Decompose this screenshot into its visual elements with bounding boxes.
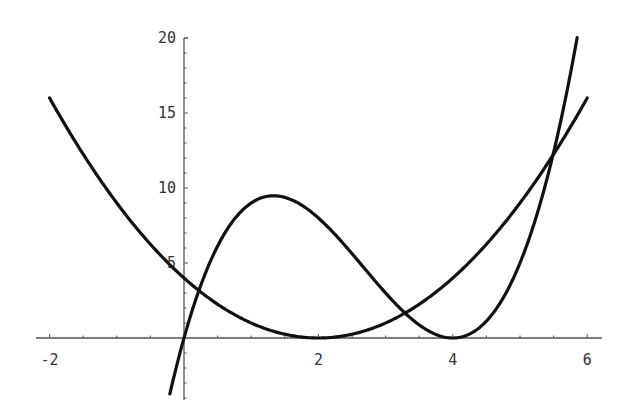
- y-tick-label: 20: [158, 29, 176, 47]
- x-tick-label: 4: [448, 351, 457, 369]
- y-tick-label: 10: [158, 179, 176, 197]
- x-tick-label: 6: [583, 351, 592, 369]
- chart: -22465101520: [0, 0, 625, 418]
- y-tick-label: 15: [158, 104, 176, 122]
- curves: [50, 38, 588, 394]
- tick-labels: -22465101520: [41, 29, 592, 369]
- x-tick-label: 2: [314, 351, 323, 369]
- x-tick-label: -2: [41, 351, 59, 369]
- cubic-curve: [170, 38, 577, 394]
